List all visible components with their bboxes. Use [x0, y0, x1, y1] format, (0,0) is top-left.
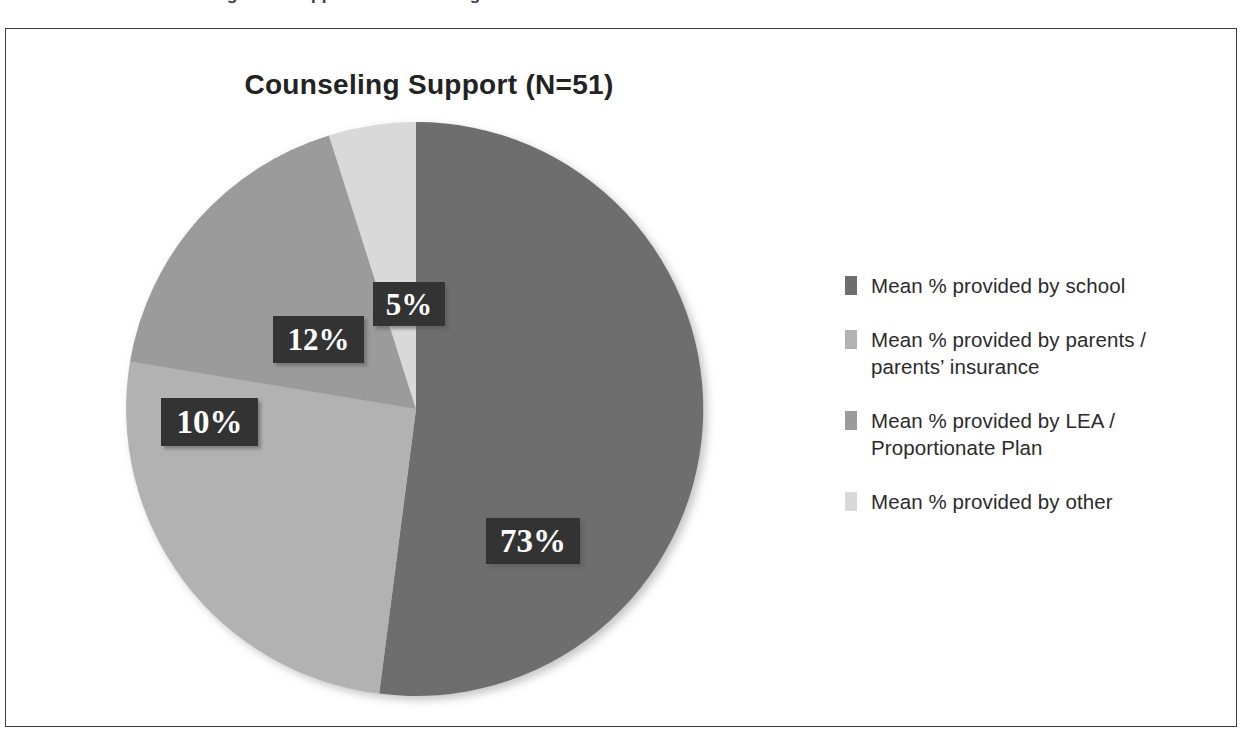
legend-item-label: Mean % provided by LEA / Proportionate P…: [871, 407, 1215, 461]
legend-item-label: Mean % provided by school: [871, 272, 1125, 299]
legend-item-other[interactable]: Mean % provided by other: [845, 488, 1215, 515]
legend-item-parents[interactable]: Mean % provided by parents / parents’ in…: [845, 326, 1215, 380]
legend-item-lea[interactable]: Mean % provided by LEA / Proportionate P…: [845, 407, 1215, 461]
legend-swatch-icon: [845, 330, 857, 349]
clipped-caption-text: igure 4. Support for counseling services: [222, 0, 555, 5]
legend-item-label: Mean % provided by parents / parents’ in…: [871, 326, 1215, 380]
figure-frame: Counseling Support (N=51) 73% 10% 12% 5%: [5, 28, 1237, 727]
pie-label-school: 73%: [486, 518, 580, 564]
pie-slice-school[interactable]: [379, 122, 703, 696]
legend-swatch-icon: [845, 492, 857, 511]
chart-legend: Mean % provided by school Mean % provide…: [845, 272, 1215, 542]
pie-label-parents: 10%: [161, 398, 258, 446]
legend-swatch-icon: [845, 411, 857, 430]
legend-swatch-icon: [845, 276, 857, 295]
pie-chart: 73% 10% 12% 5%: [6, 29, 852, 728]
pie-label-other: 5%: [373, 282, 445, 326]
pie-label-lea: 12%: [273, 316, 364, 363]
clipped-caption-strip: igure 4. Support for counseling services: [0, 0, 1260, 5]
legend-item-school[interactable]: Mean % provided by school: [845, 272, 1215, 299]
legend-item-label: Mean % provided by other: [871, 488, 1113, 515]
